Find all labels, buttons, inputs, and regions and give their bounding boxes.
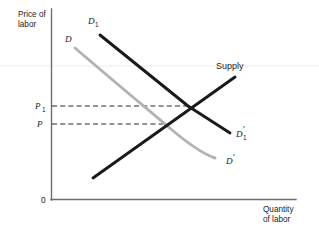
supply-curve-label: Supply (216, 61, 244, 71)
demand-shifted-label-letter: D (87, 16, 95, 26)
y-tick-p-label: P (36, 119, 43, 129)
y-axis-title-line1: Price of (18, 10, 46, 19)
x-axis-title-line2: of labor (263, 215, 291, 224)
y-axis-title-line2: labor (18, 20, 36, 29)
x-axis-title-line1: Quantity (263, 205, 294, 214)
demand-original-end-label: D ′ (225, 152, 235, 166)
supply-curve (93, 77, 235, 178)
demand-original-end-prime: ′ (233, 152, 235, 162)
chart-canvas: Price of labor Quantity of labor 0 P 1 P… (0, 0, 319, 235)
demand-shifted-end-subscript: 1 (243, 134, 247, 141)
demand-shifted-end-label: D 1 ′ (235, 124, 247, 141)
y-tick-p1-subscript: 1 (42, 106, 46, 113)
demand-original-end-letter: D (225, 156, 233, 166)
economics-supply-demand-figure: Price of labor Quantity of labor 0 P 1 P… (0, 0, 319, 235)
y-tick-p1: P 1 (34, 101, 46, 113)
demand-shifted-label-subscript: 1 (95, 21, 99, 28)
origin-label: 0 (41, 195, 46, 205)
demand-original-label: D (64, 34, 72, 44)
demand-shifted-label: D 1 (87, 16, 99, 28)
y-tick-p1-label: P (34, 101, 41, 111)
demand-shifted-end-prime: ′ (243, 124, 245, 134)
demand-shifted-end-letter: D (235, 129, 243, 139)
